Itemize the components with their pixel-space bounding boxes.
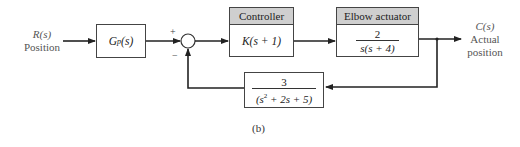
summing-junction xyxy=(181,34,195,48)
prefilter-block: Gp(s) xyxy=(96,24,146,58)
actuator-header: Elbow actuator xyxy=(337,8,418,25)
controller-block: Controller K(s + 1) xyxy=(229,7,294,57)
output-signal: C(s) xyxy=(476,20,495,32)
input-signal: R(s) xyxy=(33,28,51,40)
output-label: C(s) Actual position xyxy=(460,20,510,59)
output-name-2: position xyxy=(460,46,510,59)
input-label: R(s) Position xyxy=(20,28,64,54)
controller-tf: K(s + 1) xyxy=(230,25,293,57)
controller-header: Controller xyxy=(230,8,293,25)
feedback-block: 3 (s2 + 2s + 5) xyxy=(244,72,324,108)
prefilter-tf: Gp(s) xyxy=(97,25,145,57)
input-name: Position xyxy=(20,41,64,54)
actuator-block: Elbow actuator 2 s(s + 4) xyxy=(336,7,419,57)
actuator-tf: 2 s(s + 4) xyxy=(356,28,398,54)
feedback-tf: 3 (s2 + 2s + 5) xyxy=(252,76,316,105)
output-name-1: Actual xyxy=(460,33,510,46)
figure-caption: (b) xyxy=(252,122,265,134)
plus-sign: + xyxy=(170,26,176,37)
minus-sign: − xyxy=(172,50,178,61)
